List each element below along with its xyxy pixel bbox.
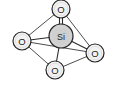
- atom-o-top[interactable]: O: [52, 0, 70, 18]
- atom-si-center[interactable]: Si: [49, 24, 73, 48]
- atom-label-o-top: O: [57, 4, 64, 15]
- atom-label-o-bottom: O: [51, 65, 58, 76]
- atom-label-o-left: O: [18, 36, 25, 47]
- atom-o-bottom[interactable]: O: [46, 61, 64, 79]
- atom-label-si: Si: [57, 32, 65, 42]
- atom-o-left[interactable]: O: [13, 32, 31, 50]
- atom-o-right[interactable]: O: [86, 44, 104, 62]
- atom-label-o-right: O: [91, 48, 98, 59]
- molecular-structure-figure: Si O O O O: [0, 0, 114, 85]
- molecular-structure-canvas: Si O O O O: [0, 0, 114, 85]
